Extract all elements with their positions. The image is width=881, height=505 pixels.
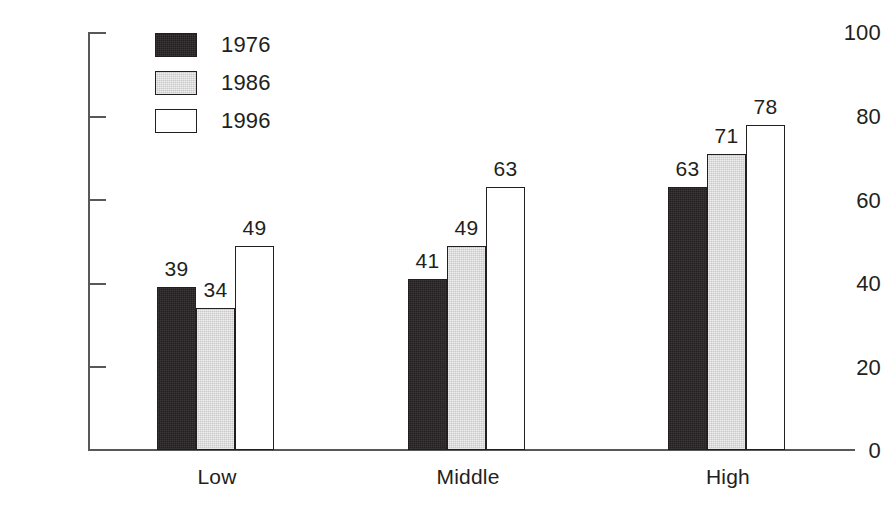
plot-area	[88, 32, 855, 450]
bar-value-high-1976: 63	[658, 158, 718, 179]
x-category-label-middle: Middle	[368, 466, 568, 487]
bar-value-high-1996: 78	[736, 96, 796, 117]
bar-value-low-1976: 39	[147, 258, 207, 279]
bar-low-1986	[196, 308, 235, 450]
x-category-label-low: Low	[117, 466, 317, 487]
bar-middle-1976	[408, 279, 447, 450]
bar-value-high-1986: 71	[697, 125, 757, 146]
bar-value-middle-1986: 49	[437, 217, 497, 238]
bar-value-middle-1996: 63	[476, 158, 536, 179]
bar-chart: Percent 100 80 60 40 20 0 1976 1986 1996	[0, 0, 881, 505]
x-category-label-high: High	[628, 466, 828, 487]
bar-low-1976	[157, 287, 196, 450]
bar-low-1996	[235, 246, 274, 450]
bar-value-low-1996: 49	[225, 217, 285, 238]
bar-middle-1986	[447, 246, 486, 450]
bar-value-middle-1976: 41	[398, 250, 458, 271]
bar-high-1996	[746, 125, 785, 450]
bar-value-low-1986: 34	[186, 279, 246, 300]
bar-high-1976	[668, 187, 707, 450]
bar-high-1986	[707, 154, 746, 450]
